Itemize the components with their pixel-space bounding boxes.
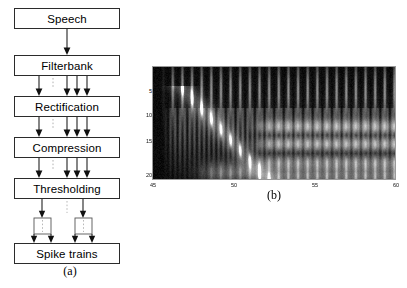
multi-arrow-icon (14, 76, 120, 96)
flow-box-label: Filterbank (41, 60, 93, 72)
ytick-label: 5 (140, 88, 152, 94)
flow-box-label: Compression (33, 142, 102, 154)
connector-rectification-to-compression (14, 117, 120, 137)
ytick-label: 15 (140, 138, 152, 144)
single-arrow-icon (14, 29, 120, 55)
multi-arrow-icon (14, 158, 120, 178)
flow-box-rectification[interactable]: Rectification (14, 96, 120, 117)
flow-box-label: Spike trains (36, 248, 97, 260)
flowchart-panel: Speech Filterbank Rectification (0, 0, 140, 288)
connector-speech-to-filterbank (14, 29, 120, 55)
flow-box-thresholding[interactable]: Thresholding (14, 178, 120, 199)
panel-a-caption: (a) (0, 264, 140, 279)
multi-arrow-icon (14, 117, 120, 137)
flow-box-label: Thresholding (33, 183, 101, 195)
connector-thresholding-to-spiketrains (14, 199, 120, 243)
connector-filterbank-to-rectification (14, 76, 120, 96)
flow-box-label: Speech (47, 13, 87, 25)
flow-box-speech[interactable]: Speech (14, 8, 120, 29)
flow-box-compression[interactable]: Compression (14, 137, 120, 158)
spectrogram-plot-area (152, 66, 396, 180)
flow-box-filterbank[interactable]: Filterbank (14, 55, 120, 76)
spectrogram-panel: 5 10 15 20 45 50 55 60 (b) (140, 0, 407, 288)
ytick-label: 20 (140, 172, 152, 178)
panel-b-caption: (b) (152, 188, 396, 203)
branching-arrow-icon (14, 199, 120, 243)
ytick-label: 10 (140, 112, 152, 118)
connector-compression-to-thresholding (14, 158, 120, 178)
flow-box-spike-trains[interactable]: Spike trains (14, 243, 120, 264)
spectrogram-image (153, 67, 395, 179)
flow-box-label: Rectification (35, 101, 99, 113)
